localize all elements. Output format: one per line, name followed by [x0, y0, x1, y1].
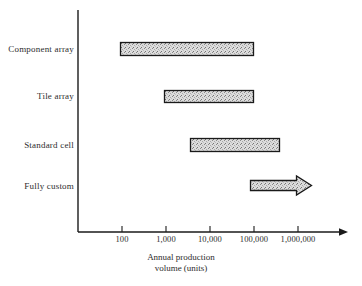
category-label-fully-custom: Fully custom — [0, 181, 74, 191]
x-axis-title-line1: Annual production — [0, 252, 362, 263]
category-label-component-array: Component array — [0, 44, 74, 54]
x-axis-arrowhead — [339, 228, 348, 236]
bar-fully-custom-arrow — [251, 176, 312, 195]
x-axis-title-line2: volume (units) — [0, 263, 362, 274]
x-tick-label-10000: 10,000 — [185, 234, 235, 244]
x-tick-label-100: 100 — [97, 234, 147, 244]
category-label-standard-cell: Standard cell — [0, 140, 74, 150]
bar-standard-cell — [191, 139, 280, 152]
x-tick-label-1000: 1,000 — [141, 234, 191, 244]
bar-component-array — [121, 43, 254, 56]
bar-tile-array — [165, 91, 254, 103]
production-volume-chart: Component array Tile array Standard cell… — [0, 0, 362, 286]
x-tick-label-1000000: 1,000,000 — [273, 234, 323, 244]
x-tick-label-100000: 100,000 — [229, 234, 279, 244]
x-axis-ticks — [122, 226, 298, 232]
category-label-tile-array: Tile array — [0, 91, 74, 101]
